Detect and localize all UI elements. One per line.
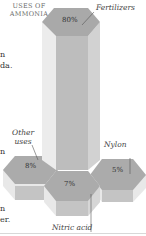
hex-columns-graphic [0,0,146,236]
cropped-text-fragment: n [0,204,5,213]
cropped-text-fragment: n [0,147,5,156]
category-label-nylon: Nylon [104,140,127,149]
value-label-other-uses: 8% [25,162,36,170]
cropped-text-fragment: da. [0,61,12,70]
cropped-text-fragment: n [0,50,5,59]
bottom-divider [0,233,146,234]
column-fertilizers [42,8,100,170]
value-label-fertilizers: 80% [62,16,78,24]
chart: USES OF AMMONIA [0,0,146,236]
category-label-other-uses: Otheruses [10,128,36,146]
category-label-fertilizers: Fertilizers [96,3,135,12]
column-nitric-acid [44,171,100,216]
value-label-nylon: 5% [112,166,123,174]
value-label-nitric-acid: 7% [64,180,75,188]
category-label-nitric-acid: Nitric acid [52,223,92,232]
cropped-text-fragment: er. [0,215,10,224]
